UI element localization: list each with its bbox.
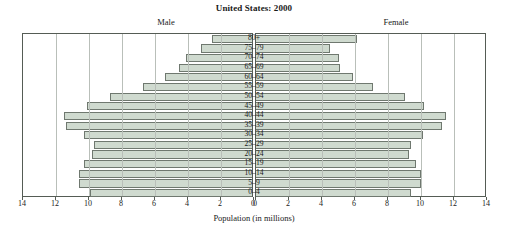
bar-row <box>256 53 485 63</box>
x-tick-mark-right-14 <box>486 197 487 200</box>
bar-row <box>23 44 252 54</box>
x-tick-mark-left-10 <box>88 197 89 200</box>
female-bar-20-24 <box>256 150 409 158</box>
x-tick-right-0: 0 <box>243 199 267 208</box>
x-tick-mark-left-2 <box>220 197 221 200</box>
x-tick-mark-left-14 <box>22 197 23 200</box>
x-tick-left-4: 4 <box>175 199 199 208</box>
gridline-2 <box>289 34 290 196</box>
x-tick-left-6: 6 <box>142 199 166 208</box>
male-bar-35-39 <box>66 122 252 130</box>
x-tick-right-6: 6 <box>342 199 366 208</box>
age-group-axis: 80+75–7970–7465–6960–6455–5950–5445–4940… <box>253 33 255 197</box>
age-label: 60–64 <box>229 72 279 82</box>
male-bar-15-19 <box>84 160 252 168</box>
x-tick-right-12: 12 <box>441 199 465 208</box>
bar-row <box>23 159 252 169</box>
x-tick-left-10: 10 <box>76 199 100 208</box>
x-tick-right-14: 14 <box>474 199 498 208</box>
bar-row <box>256 44 485 54</box>
gridline-8 <box>388 34 389 196</box>
age-label: 55–59 <box>229 81 279 91</box>
male-bar-30-34 <box>84 131 252 139</box>
x-axis-caption: Population (in millions) <box>0 213 508 223</box>
age-label: 35–39 <box>229 120 279 130</box>
x-tick-left-12: 12 <box>43 199 67 208</box>
female-bar-rows <box>256 34 485 196</box>
gridline-6 <box>155 34 156 196</box>
male-bar-20-24 <box>92 150 252 158</box>
male-bar-10-14 <box>79 170 252 178</box>
age-label: 70–74 <box>229 52 279 62</box>
female-bar-45-49 <box>256 102 424 110</box>
x-tick-mark-right-4 <box>321 197 322 200</box>
gridline-4 <box>322 34 323 196</box>
bar-row <box>23 169 252 179</box>
bar-row <box>23 82 252 92</box>
female-bar-5-9 <box>256 179 421 187</box>
bar-row <box>256 121 485 131</box>
bar-row <box>256 73 485 83</box>
gridline-12 <box>56 34 57 196</box>
male-plot-panel <box>22 33 253 197</box>
age-label: 0–4 <box>229 187 279 197</box>
age-label: 65–69 <box>229 62 279 72</box>
x-tick-mark-left-8 <box>121 197 122 200</box>
age-label: 30–34 <box>229 129 279 139</box>
bar-row <box>23 111 252 121</box>
x-tick-mark-right-12 <box>453 197 454 200</box>
x-tick-right-4: 4 <box>309 199 333 208</box>
female-panel-label: Female <box>336 17 456 27</box>
x-tick-mark-right-8 <box>387 197 388 200</box>
male-bar-5-9 <box>79 179 252 187</box>
bar-row <box>256 130 485 140</box>
female-bar-40-44 <box>256 112 446 120</box>
bar-row <box>23 121 252 131</box>
bar-row <box>256 140 485 150</box>
gridline-10 <box>421 34 422 196</box>
bar-row <box>23 102 252 112</box>
gridline-10 <box>89 34 90 196</box>
bar-row <box>256 169 485 179</box>
gridline-8 <box>122 34 123 196</box>
male-bar-0-4 <box>90 189 252 197</box>
x-tick-right-8: 8 <box>375 199 399 208</box>
bar-row <box>256 92 485 102</box>
bar-row <box>256 34 485 44</box>
x-tick-left-2: 2 <box>208 199 232 208</box>
age-label: 80+ <box>229 33 279 43</box>
age-label: 45–49 <box>229 101 279 111</box>
age-label: 5–9 <box>229 178 279 188</box>
age-label: 25–29 <box>229 139 279 149</box>
gridline-12 <box>454 34 455 196</box>
bar-row <box>23 179 252 189</box>
bar-row <box>23 150 252 160</box>
female-bar-30-34 <box>256 131 423 139</box>
bar-row <box>23 63 252 73</box>
age-label: 20–24 <box>229 149 279 159</box>
bar-row <box>23 34 252 44</box>
x-tick-mark-right-2 <box>288 197 289 200</box>
bar-row <box>256 159 485 169</box>
x-tick-mark-right-0 <box>255 197 256 200</box>
x-tick-left-14: 14 <box>10 199 34 208</box>
bar-row <box>23 73 252 83</box>
gridline-2 <box>221 34 222 196</box>
bar-row <box>256 82 485 92</box>
x-tick-mark-left-12 <box>55 197 56 200</box>
female-plot-panel <box>255 33 486 197</box>
bar-row <box>23 130 252 140</box>
x-tick-right-2: 2 <box>276 199 300 208</box>
age-label: 15–19 <box>229 158 279 168</box>
male-bar-45-49 <box>87 102 252 110</box>
age-label: 75–79 <box>229 43 279 53</box>
bar-row <box>256 150 485 160</box>
female-bar-15-19 <box>256 160 416 168</box>
bar-row <box>23 188 252 198</box>
x-tick-mark-right-10 <box>420 197 421 200</box>
bar-row <box>256 63 485 73</box>
x-tick-mark-left-6 <box>154 197 155 200</box>
male-bar-40-44 <box>64 112 252 120</box>
population-pyramid-chart: United States: 2000 Male Female 80+75–79… <box>0 0 508 242</box>
bar-row <box>23 53 252 63</box>
